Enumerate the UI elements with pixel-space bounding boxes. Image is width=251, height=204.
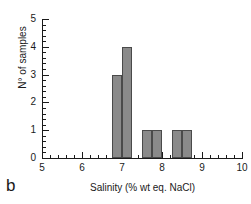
bars-layer: [0, 0, 251, 204]
histogram-bar: [142, 130, 152, 158]
histogram-figure: 5678910012345 Salinity (% wt eq. NaCl) N…: [0, 0, 251, 204]
histogram-bar: [112, 75, 122, 158]
y-axis-title: N° of samples: [17, 0, 28, 118]
histogram-bar: [182, 130, 192, 158]
panel-label: b: [6, 176, 15, 195]
histogram-bar: [172, 130, 182, 158]
x-axis-title: Salinity (% wt eq. NaCl): [42, 182, 243, 193]
histogram-bar: [152, 130, 162, 158]
histogram-bar: [122, 47, 132, 158]
